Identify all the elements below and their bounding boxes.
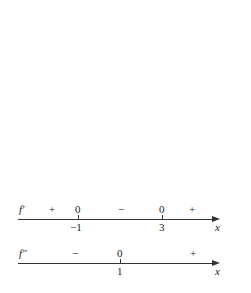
sign-interval-2: +: [190, 248, 196, 259]
function-label: f′: [19, 204, 24, 215]
tick-mark: [162, 215, 163, 220]
sign-interval-1: +: [49, 204, 55, 215]
sign-interval-3: +: [189, 204, 195, 215]
number-line: [18, 219, 216, 220]
zero-label: 0: [117, 248, 123, 259]
tick-mark: [120, 259, 121, 264]
zero-label-1: 0: [75, 204, 81, 215]
number-line: [18, 263, 216, 264]
function-label: f″: [19, 248, 27, 259]
tick-mark: [78, 215, 79, 220]
sign-interval-2: −: [118, 204, 124, 215]
critical-point-1: 1: [117, 266, 123, 277]
axis-label: x: [215, 222, 220, 233]
zero-label-2: 0: [159, 204, 165, 215]
critical-point-2: 3: [159, 222, 165, 233]
axis-label: x: [215, 266, 220, 277]
critical-point-1: −1: [70, 222, 82, 233]
sign-interval-1: −: [72, 248, 78, 259]
